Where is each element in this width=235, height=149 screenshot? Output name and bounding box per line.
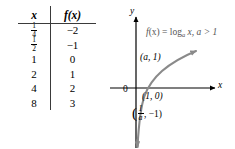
table-cell-x: 2 <box>18 68 50 80</box>
table-header-fx-label: f(x) <box>64 9 81 21</box>
log-variable: x <box>185 27 192 37</box>
table-row: 4 2 <box>18 81 96 96</box>
table-cell-x: 4 <box>18 82 50 94</box>
function-graph: y x 0 f(x) = loga x, a > 1 (a, 1) (1, 0)… <box>110 0 235 149</box>
table-cell-fx: 2 <box>50 81 94 96</box>
graph-canvas <box>110 0 235 149</box>
function-equation-label: f(x) = loga x, a > 1 <box>146 27 217 38</box>
value-table: x f(x) 1 4 −2 1 2 <box>18 6 96 110</box>
fraction-one-over-a: 1 a <box>138 105 144 123</box>
y-axis-label: y <box>130 6 134 16</box>
table-row: 1 2 −1 <box>18 38 96 53</box>
table-row: 2 1 <box>18 67 96 82</box>
table-cell-x: 8 <box>18 97 50 109</box>
table-row: 1 0 <box>18 52 96 67</box>
point-label-inverse-a: ( 1 a , −1) <box>132 105 162 123</box>
logarithm-figure: x f(x) 1 4 −2 1 2 <box>0 0 235 149</box>
table-cell-fx: 1 <box>50 67 94 82</box>
table-cell-fx: 3 <box>50 96 94 111</box>
table-row: 8 3 <box>18 96 96 111</box>
table-cell-x: 1 2 <box>18 36 50 53</box>
fn-arg: (x) <box>149 27 160 37</box>
table-row: 1 4 −2 <box>18 23 96 38</box>
table-header-x-label: x <box>31 9 37 21</box>
x-axis-label: x <box>218 80 222 90</box>
table-cell-x: 1 <box>18 53 50 65</box>
table-cell-fx: 0 <box>50 52 94 67</box>
fraction-one-half: 1 2 <box>31 36 37 53</box>
origin-label: 0 <box>123 84 128 94</box>
fn-condition: , a > 1 <box>192 27 217 37</box>
table-cell-fx: −2 <box>50 23 94 38</box>
point-label-a-1: (a, 1) <box>140 52 161 62</box>
table-header-x: x <box>18 9 50 21</box>
point-label-1-0: (1, 0) <box>142 91 163 101</box>
fn-equals: = <box>160 27 170 37</box>
table-cell-fx: −1 <box>50 38 94 53</box>
open-paren: ( <box>132 107 137 121</box>
inverse-point-tail: , −1) <box>144 109 162 119</box>
table-header-rule <box>18 23 96 24</box>
table-header-fx: f(x) <box>50 6 94 23</box>
log-operator: log <box>170 27 182 37</box>
table-header-row: x f(x) <box>18 6 96 23</box>
